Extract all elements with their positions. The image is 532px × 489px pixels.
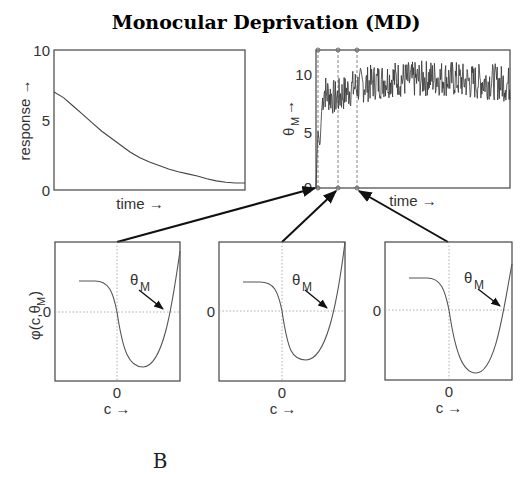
theta-annotation: θ [464,269,472,286]
arrow-to-panel-2 [282,191,336,242]
theta-annotation-sub: M [140,280,150,294]
response-chart: 10 5 0 response → time → [16,42,245,212]
theta-ylabel-symbol: θ [280,128,297,136]
c-tick-0: 0 [113,384,121,401]
y-tick-0: 0 [42,182,50,199]
c-xlabel: c → [436,399,463,416]
y-tick-10: 10 [33,42,50,59]
theta-ylabel: θ M → [280,100,301,136]
theta-ylabel-sub: M [289,117,301,126]
theta-y-tick-10: 10 [295,66,312,83]
phi-curve [79,251,180,367]
phi-panel-3: θ M 0 c → 0 [373,242,512,416]
c-xlabel: c → [270,400,297,417]
y-tick-5: 5 [42,112,50,129]
phi-panels: θ M 0 c → φ(c,θ M ) 0 θ M 0 c → 0 [26,242,512,417]
theta-y-tick-5: 5 [304,124,312,141]
theta-chart: 10 5 0 θ M → time → [280,48,510,209]
theta-xlabel: time → [389,192,437,209]
phi-curve [243,242,345,360]
theta-curve [316,61,510,188]
response-ylabel: response → [16,80,33,161]
theta-ylabel-arrow: → [280,100,297,115]
c-tick-0: 0 [278,384,286,401]
response-xlabel: time → [116,195,164,212]
phi-ylabel-text: φ(c,θ [26,305,43,340]
phi-y-tick-0: 0 [207,303,215,320]
theta-y-tick-0: 0 [304,179,312,196]
c-tick-0: 0 [445,383,453,400]
c-xlabel: c → [104,400,131,417]
phi-y-tick-0: 0 [373,302,381,319]
theta-annotation-sub: M [474,278,484,292]
phi-panel-2: θ M 0 c → 0 [207,242,345,417]
theta-annotation-sub: M [302,280,312,294]
response-plot-frame [54,50,245,190]
figure-title: Monocular Deprivation (MD) [112,11,421,33]
theta-annotation: θ [130,271,138,288]
response-curve [54,92,245,183]
phi-panel-frame [385,242,512,380]
phi-y-tick-0: 0 [43,303,51,320]
figure: Monocular Deprivation (MD) 10 5 0 respon… [0,0,532,489]
panel-letter: B [153,449,168,473]
phi-panel-1: θ M 0 c → φ(c,θ M ) 0 [26,242,180,417]
phi-ylabel-close: ) [26,291,43,296]
phi-curve [409,264,512,373]
phi-panel-frame [55,242,180,381]
theta-annotation: θ [292,271,300,288]
